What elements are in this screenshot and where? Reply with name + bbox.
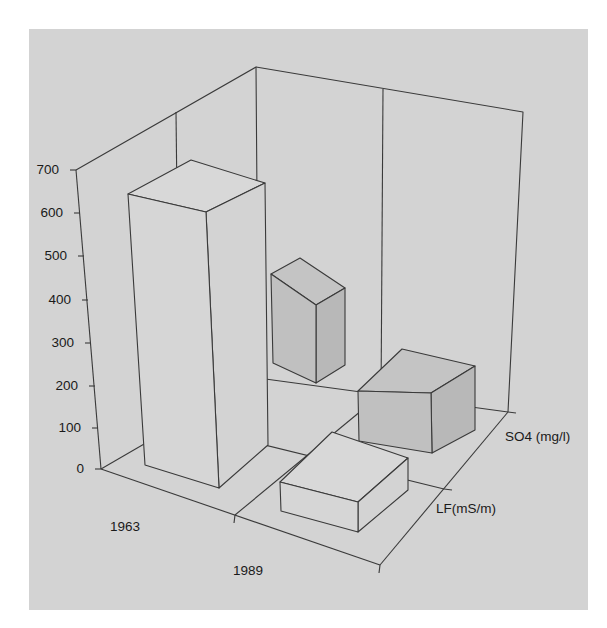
category-label-1989: 1989 bbox=[233, 563, 263, 578]
y-tick-600: 600 bbox=[23, 205, 63, 220]
y-tick-100: 100 bbox=[41, 420, 81, 435]
series-label-lf: LF(mS/m) bbox=[436, 501, 496, 516]
y-tick-400: 400 bbox=[31, 292, 71, 307]
y-tick-200: 200 bbox=[38, 378, 78, 393]
y-tick-0: 0 bbox=[44, 461, 84, 476]
series-label-so4: SO4 (mg/l) bbox=[505, 429, 570, 444]
y-tick-300: 300 bbox=[34, 335, 74, 350]
chart-3d-plot bbox=[0, 0, 607, 628]
category-label-1963: 1963 bbox=[110, 519, 140, 534]
y-tick-700: 700 bbox=[19, 162, 59, 177]
bar-lf-1989 bbox=[280, 432, 408, 532]
bar-so4-1989 bbox=[358, 349, 475, 453]
bar-lf-1963 bbox=[128, 160, 268, 488]
bar-so4-1963 bbox=[271, 258, 345, 383]
y-tick-500: 500 bbox=[27, 248, 67, 263]
